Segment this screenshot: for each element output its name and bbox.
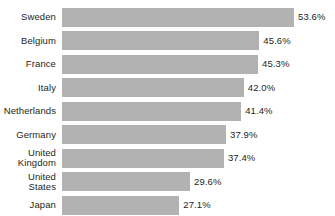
bar[interactable] xyxy=(62,8,294,27)
bar[interactable] xyxy=(62,172,190,191)
bar-chart-rows: Sweden53.6%Belgium45.6%France45.3%Italy4… xyxy=(0,6,335,216)
bar-row: Germany37.9% xyxy=(0,124,335,146)
category-label: Italy xyxy=(0,83,62,93)
category-label: Belgium xyxy=(0,36,62,46)
bar-area: 53.6% xyxy=(62,6,335,28)
bar-value-label: 29.6% xyxy=(194,177,221,187)
category-label: United States xyxy=(0,172,62,192)
category-label: France xyxy=(0,59,62,69)
bar-area: 37.9% xyxy=(62,124,335,146)
caption-sliver xyxy=(0,209,335,216)
bar-value-label: 37.4% xyxy=(228,153,255,163)
bar-row: Belgium45.6% xyxy=(0,30,335,52)
bar-value-label: 53.6% xyxy=(298,12,325,22)
bar[interactable] xyxy=(62,102,241,121)
bar-area: 42.0% xyxy=(62,77,335,99)
bar[interactable] xyxy=(62,55,258,74)
bar-value-label: 45.3% xyxy=(262,59,289,69)
bar[interactable] xyxy=(62,31,259,50)
category-label: Netherlands xyxy=(0,106,62,116)
bar-row: France45.3% xyxy=(0,53,335,75)
bar-area: 45.3% xyxy=(62,53,335,75)
bar-value-label: 45.6% xyxy=(263,36,290,46)
bar-area: 45.6% xyxy=(62,30,335,52)
bar-row: Sweden53.6% xyxy=(0,6,335,28)
bar[interactable] xyxy=(62,125,226,144)
bar-value-label: 41.4% xyxy=(245,106,272,116)
bar-value-label: 37.9% xyxy=(230,130,257,140)
bar-row: Netherlands41.4% xyxy=(0,100,335,122)
bar[interactable] xyxy=(62,149,224,168)
bar-area: 29.6% xyxy=(62,171,335,193)
bar-row: United Kingdom37.4% xyxy=(0,147,335,169)
bar-area: 37.4% xyxy=(62,147,335,169)
bar-row: Italy42.0% xyxy=(0,77,335,99)
bar-chart: Sweden53.6%Belgium45.6%France45.3%Italy4… xyxy=(0,0,335,216)
bar-area: 41.4% xyxy=(62,100,335,122)
bar-value-label: 42.0% xyxy=(248,83,275,93)
category-label: Sweden xyxy=(0,12,62,22)
bar-row: United States29.6% xyxy=(0,171,335,193)
category-label: United Kingdom xyxy=(0,148,62,168)
bar[interactable] xyxy=(62,78,244,97)
category-label: Germany xyxy=(0,130,62,140)
